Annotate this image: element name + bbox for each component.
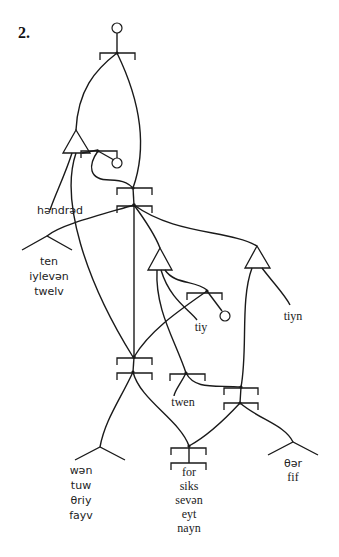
label-tiy: tiy (195, 320, 208, 334)
label-twelv: twelv (34, 285, 64, 298)
label-wen: wən (70, 464, 93, 477)
ty-circle-icon (220, 311, 230, 321)
label-tuw: tuw (71, 479, 91, 492)
right-triangle-node (245, 246, 270, 268)
label-fayv: fayv (69, 509, 93, 522)
label-nayn: nayn (177, 521, 200, 535)
label-fif: fif (287, 470, 298, 484)
relational-network-diagram: həndrəd ten iylevən twelv tiy tiyn twen (0, 0, 339, 557)
label-ten: ten (40, 255, 58, 268)
label-tiyn: tiyn (284, 309, 303, 323)
label-for: for (182, 465, 196, 479)
label-hundred: həndrəd (37, 204, 83, 217)
middle-triangle-node (148, 248, 172, 270)
label-iyleven: iylevən (29, 270, 69, 283)
label-seven: sevən (175, 493, 202, 507)
ty-line (161, 270, 197, 320)
hundred-line (50, 153, 72, 210)
label-thriy: θriy (71, 494, 92, 507)
label-eyt: eyt (182, 507, 197, 521)
left-triangle-node (63, 130, 90, 153)
small-circle-icon (112, 158, 122, 168)
label-ther: θər (284, 457, 302, 470)
top-circle-icon (112, 23, 122, 33)
teen-line (262, 268, 290, 305)
label-siks: siks (180, 479, 199, 493)
label-twen: twen (171, 395, 194, 409)
twen-line (174, 373, 186, 396)
